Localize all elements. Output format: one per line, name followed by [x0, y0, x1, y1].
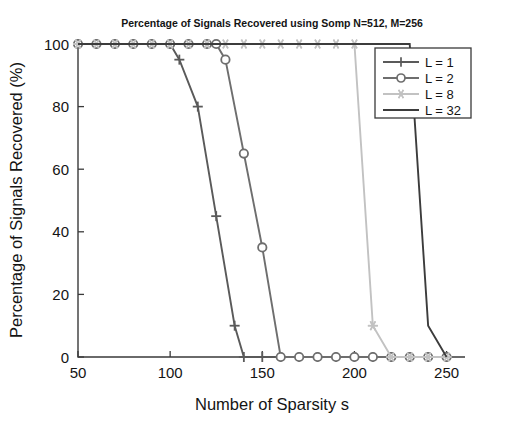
x-axis-label: Number of Sparsity s: [195, 395, 349, 413]
x-axis-ticks: 50100150200250: [70, 351, 459, 381]
chart-figure: Percentage of Signals Recovered using So…: [0, 0, 519, 422]
marker-plus: [211, 211, 221, 221]
marker-circle: [397, 74, 405, 82]
y-axis-label: Percentage of Signals Recovered (%): [7, 62, 25, 338]
y-tick-label: 80: [52, 98, 69, 115]
marker-plus: [230, 321, 240, 331]
y-tick-label: 20: [52, 286, 69, 303]
legend-label: L = 8: [425, 87, 454, 102]
marker-circle: [277, 353, 285, 361]
marker-circle: [313, 353, 321, 361]
marker-plus: [239, 352, 249, 362]
chart-title: Percentage of Signals Recovered using So…: [121, 17, 423, 29]
marker-circle: [258, 243, 266, 251]
legend-label: L = 2: [425, 71, 454, 86]
y-tick-label: 60: [52, 161, 69, 178]
marker-plus: [174, 55, 184, 65]
marker-plus: [257, 352, 267, 362]
marker-plus: [193, 102, 203, 112]
chart-legend: L = 1L = 2L = 8L = 32: [375, 48, 471, 118]
marker-circle: [332, 353, 340, 361]
legend-label: L = 32: [425, 103, 461, 118]
x-tick-label: 50: [70, 364, 87, 381]
y-tick-label: 0: [61, 349, 69, 366]
x-tick-label: 250: [434, 364, 459, 381]
y-tick-label: 100: [44, 36, 69, 53]
marker-circle: [295, 353, 303, 361]
legend-label: L = 1: [425, 55, 454, 70]
chart-svg: Percentage of Signals Recovered using So…: [0, 0, 519, 422]
marker-circle: [350, 353, 358, 361]
marker-circle: [240, 149, 248, 157]
marker-circle: [221, 55, 229, 63]
x-tick-label: 150: [250, 364, 275, 381]
x-tick-label: 200: [342, 364, 367, 381]
marker-circle: [369, 353, 377, 361]
x-tick-label: 100: [158, 364, 183, 381]
y-tick-label: 40: [52, 223, 69, 240]
